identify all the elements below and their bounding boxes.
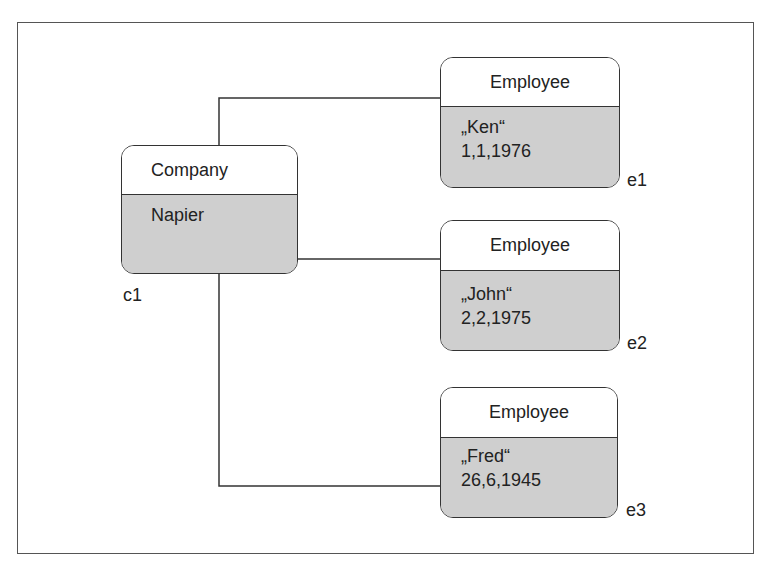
employee-object-e2[interactable]: Employee „John“ 2,2,1975 — [440, 220, 620, 351]
company-attributes: Napier — [122, 195, 297, 273]
employee-class-name: Employee — [489, 402, 569, 423]
company-class-header: Company — [122, 146, 297, 195]
link-c1-e1 — [219, 98, 441, 146]
company-object-c1[interactable]: Company Napier — [121, 145, 298, 274]
link-c1-e3 — [219, 273, 441, 486]
employee-id-label: e3 — [626, 500, 646, 521]
employee-id-label: e1 — [627, 170, 647, 191]
employee-class-name: Employee — [490, 235, 570, 256]
employee-attr-birthdate: 2,2,1975 — [461, 306, 619, 330]
link-lines — [0, 0, 772, 573]
employee-object-e1[interactable]: Employee „Ken“ 1,1,1976 — [440, 57, 620, 188]
employee-object-e3[interactable]: Employee „Fred“ 26,6,1945 — [440, 387, 618, 518]
employee-attr-name: „Fred“ — [461, 444, 617, 468]
employee-attributes: „Fred“ 26,6,1945 — [441, 438, 617, 517]
employee-attr-birthdate: 1,1,1976 — [461, 139, 619, 163]
employee-attr-name: „Ken“ — [461, 115, 619, 139]
employee-class-header: Employee — [441, 221, 619, 271]
employee-class-header: Employee — [441, 58, 619, 107]
employee-id-label: e2 — [627, 333, 647, 354]
employee-class-header: Employee — [441, 388, 617, 438]
company-class-name: Company — [151, 160, 228, 181]
company-id-label: c1 — [123, 285, 142, 306]
employee-class-name: Employee — [490, 72, 570, 93]
employee-attr-name: „John“ — [461, 282, 619, 306]
employee-attr-birthdate: 26,6,1945 — [461, 468, 617, 492]
employee-attributes: „Ken“ 1,1,1976 — [441, 107, 619, 187]
company-attr-name: Napier — [151, 203, 297, 227]
employee-attributes: „John“ 2,2,1975 — [441, 271, 619, 350]
